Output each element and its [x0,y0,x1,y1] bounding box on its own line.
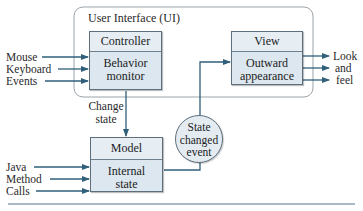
change-state-label: Change state [86,100,126,125]
diagram-connectors [0,0,363,211]
ui-container-label: User Interface (UI) [88,12,180,25]
output-look: Look [333,50,357,63]
input-java: Java [6,161,26,174]
controller-box: Controller Behavior monitor [89,31,162,90]
input-method: Method [6,173,42,186]
view-title: View [232,32,302,52]
model-box: Model Internal state [90,137,163,192]
model-body-line2: state [91,178,162,191]
change-state-line1: Change [86,100,126,113]
change-state-line2: state [86,113,126,126]
controller-body-line2: monitor [90,70,161,83]
input-events: Events [6,75,37,88]
output-and: and [335,62,352,75]
controller-body: Behavior monitor [90,52,161,83]
controller-title: Controller [90,32,161,52]
state-changed-event-circle: State changed event [175,115,223,163]
input-calls: Calls [6,185,30,198]
view-body: Outward appearance [232,52,302,83]
view-body-line2: appearance [232,70,302,83]
input-mouse: Mouse [6,51,37,64]
output-feel: feel [336,74,353,87]
event-line2: changed [176,134,222,147]
input-keyboard: Keyboard [6,63,51,76]
event-line3: event [176,146,222,159]
view-box: View Outward appearance [231,31,303,85]
model-body: Internal state [91,160,162,191]
event-line1: State [176,121,222,134]
model-title: Model [91,138,162,160]
event-to-view-arrow [200,62,230,116]
